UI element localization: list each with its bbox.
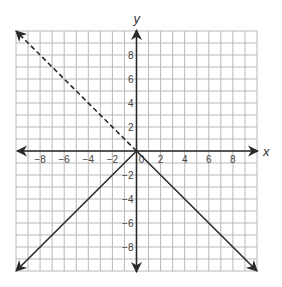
x-tick-label: −8 [34, 154, 46, 165]
coordinate-plane: −8−6−4−2024688642−2−4−6−8 x y [0, 0, 282, 287]
y-tick-label: −2 [122, 170, 134, 181]
x-tick-label: 2 [158, 154, 164, 165]
x-tick-label: −2 [107, 154, 119, 165]
y-axis-label: y [133, 11, 142, 26]
y-tick-label: 6 [128, 74, 134, 85]
y-tick-label: 8 [128, 50, 134, 61]
x-tick-label: −6 [58, 154, 70, 165]
y-tick-label: −6 [122, 218, 134, 229]
x-tick-label: 8 [230, 154, 236, 165]
y-tick-label: 2 [128, 122, 134, 133]
y-tick-label: −8 [122, 242, 134, 253]
x-tick-label: −4 [83, 154, 95, 165]
x-axis-label: x [262, 144, 270, 159]
x-tick-label: 4 [182, 154, 188, 165]
y-tick-label: 4 [128, 98, 134, 109]
y-tick-label: −4 [122, 194, 134, 205]
x-tick-label: 6 [206, 154, 212, 165]
